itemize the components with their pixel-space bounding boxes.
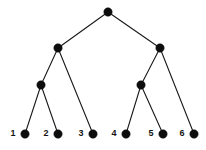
leaf-label-1: 1 <box>10 128 15 138</box>
leaf-label-3: 3 <box>78 128 83 138</box>
tree-leaf-node-3 <box>89 130 97 138</box>
tree-internal-node-root <box>104 8 112 16</box>
tree-internal-node-n-ll <box>37 81 45 89</box>
tree-edge-n-r-to-leaf-6 <box>160 48 194 134</box>
leaf-label-4: 4 <box>111 128 116 138</box>
leaf-labels-group: 123456 <box>10 128 184 138</box>
tree-edge-n-ll-to-leaf-2 <box>41 85 58 134</box>
tree-edge-root-to-n-r <box>108 12 160 48</box>
tree-edge-n-r-to-n-rl <box>141 48 160 85</box>
tree-edges-group <box>25 12 194 134</box>
tree-diagram-canvas: 123456 <box>0 0 206 150</box>
tree-edge-n-l-to-n-ll <box>41 48 58 85</box>
tree-internal-node-n-l <box>54 44 62 52</box>
tree-internal-node-n-r <box>156 44 164 52</box>
leaf-label-5: 5 <box>148 128 153 138</box>
tree-leaf-node-2 <box>54 130 62 138</box>
tree-leaf-node-5 <box>159 130 167 138</box>
tree-leaf-node-1 <box>21 130 29 138</box>
binary-tree-figure: 123456 <box>0 0 206 150</box>
tree-edge-n-ll-to-leaf-1 <box>25 85 41 134</box>
tree-edge-n-rl-to-leaf-5 <box>141 85 163 134</box>
tree-leaf-node-4 <box>122 130 130 138</box>
tree-edge-n-l-to-leaf-3 <box>58 48 93 134</box>
tree-leaf-node-6 <box>190 130 198 138</box>
leaf-label-2: 2 <box>43 128 48 138</box>
tree-edge-root-to-n-l <box>58 12 108 48</box>
tree-nodes-group <box>21 8 198 138</box>
leaf-label-6: 6 <box>179 128 184 138</box>
tree-edge-n-rl-to-leaf-4 <box>126 85 141 134</box>
tree-internal-node-n-rl <box>137 81 145 89</box>
